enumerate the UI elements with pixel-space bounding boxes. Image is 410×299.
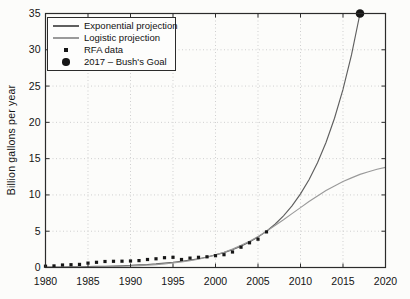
y-tick-label: 20 (29, 116, 41, 128)
exponential-line-swatch (48, 25, 84, 26)
y-tick-label: 5 (35, 225, 41, 237)
logistic-line-swatch (48, 37, 84, 38)
rfa-data-point (154, 257, 157, 260)
rfa-data-point (171, 256, 174, 259)
y-tick-label: 10 (29, 188, 41, 200)
x-tick-label: 2020 (374, 275, 398, 287)
rfa-data-point (231, 250, 234, 253)
rfa-data-point (205, 255, 208, 258)
legend-label: 2017 – Bush's Goal (84, 57, 167, 67)
y-tick-label: 30 (29, 43, 41, 55)
rfa-data-point (265, 230, 268, 233)
rfa-data-point (239, 246, 242, 249)
rfa-data-point (163, 256, 166, 259)
rfa-data-point (137, 259, 140, 262)
rfa-data-point (180, 258, 183, 261)
rfa-data-point (188, 257, 191, 260)
legend-item-exponential: Exponential projection (48, 20, 175, 32)
legend-item-rfa-data: RFA data (48, 44, 175, 56)
legend-item-logistic: Logistic projection (48, 32, 175, 44)
y-tick-label: 15 (29, 152, 41, 164)
x-tick-label: 1995 (161, 275, 185, 287)
x-tick-label: 2015 (331, 275, 355, 287)
legend-label: Exponential projection (84, 21, 177, 31)
rfa-data-point (197, 256, 200, 259)
figure: 1980198519901995200020052010201520200510… (0, 0, 410, 299)
legend-item-bush-goal: 2017 – Bush's Goal (48, 56, 175, 68)
legend-label: Logistic projection (84, 33, 160, 43)
x-tick-label: 2000 (204, 275, 228, 287)
rfa-data-point (214, 254, 217, 257)
y-tick-label: 25 (29, 80, 41, 92)
legend-label: RFA data (84, 45, 123, 55)
y-tick-label: 35 (29, 7, 41, 19)
rfa-data-point (129, 259, 132, 262)
x-tick-label: 1985 (76, 275, 100, 287)
rfa-data-point (120, 260, 123, 263)
rfa-data-point (256, 238, 259, 241)
y-tick-label: 0 (35, 261, 41, 273)
x-tick-label: 1980 (34, 275, 58, 287)
y-axis-label: Billion gallons per year (5, 85, 17, 195)
rfa-data-point (95, 261, 98, 264)
rfa-data-point (146, 258, 149, 261)
rfa-data-point (112, 260, 115, 263)
x-tick-label: 2010 (289, 275, 313, 287)
rfa-data-point (222, 253, 225, 256)
circle-marker-icon (48, 58, 84, 66)
x-tick-label: 2005 (246, 275, 270, 287)
square-marker-icon (48, 48, 84, 52)
rfa-data-point (248, 241, 251, 244)
legend: Exponential projection Logistic projecti… (47, 17, 176, 71)
x-tick-label: 1990 (119, 275, 143, 287)
rfa-data-point (78, 263, 81, 266)
rfa-data-point (69, 263, 72, 266)
rfa-data-point (103, 260, 106, 263)
rfa-data-point (61, 263, 64, 266)
